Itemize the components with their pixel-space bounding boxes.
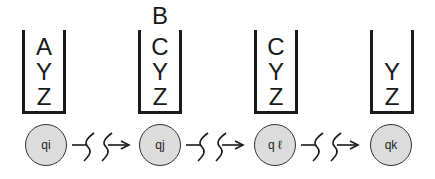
zigzag-arrow-icon <box>72 133 129 161</box>
zigzag-arrow-icon <box>186 133 243 161</box>
zigzag-arrow-icon <box>301 133 358 161</box>
transition-arrows <box>0 0 435 179</box>
pda-diagram: A Y Z B C Y Z C Y Z Y Z qi qj q ℓ <box>0 0 435 179</box>
